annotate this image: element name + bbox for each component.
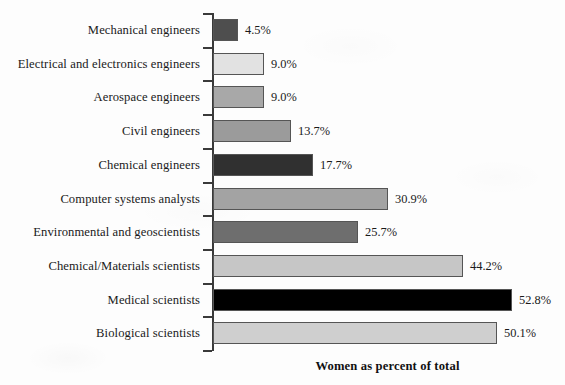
category-label: Environmental and geoscientists	[0, 215, 200, 249]
category-label: Electrical and electronics engineers	[0, 47, 200, 81]
axis-tick	[203, 215, 212, 217]
bar-value-label: 17.7%	[320, 154, 352, 176]
bar-value-label: 9.0%	[271, 53, 297, 75]
category-label: Chemical/Materials scientists	[0, 249, 200, 283]
category-label: Computer systems analysts	[0, 182, 200, 216]
axis-tick	[203, 13, 212, 15]
axis-tick	[203, 182, 212, 184]
axis-tick	[203, 283, 212, 285]
axis-tick	[203, 114, 212, 116]
bar	[213, 188, 388, 210]
axis-tick	[203, 316, 212, 318]
bar-value-label: 52.8%	[519, 289, 551, 311]
bar	[213, 221, 358, 243]
category-label: Medical scientists	[0, 283, 200, 317]
bar-value-label: 13.7%	[298, 120, 330, 142]
category-label: Biological scientists	[0, 316, 200, 350]
value-axis-title: Women as percent of total	[290, 359, 485, 374]
category-label: Chemical engineers	[0, 148, 200, 182]
bar	[213, 120, 291, 142]
bar	[213, 86, 264, 108]
bar	[213, 289, 512, 311]
bar	[213, 53, 264, 75]
axis-tick	[203, 148, 212, 150]
category-label: Mechanical engineers	[0, 13, 200, 47]
bar	[213, 322, 497, 344]
axis-tick	[203, 350, 212, 352]
bar	[213, 19, 238, 41]
bar-value-label: 25.7%	[365, 221, 397, 243]
bar-chart: Mechanical engineers4.5%Electrical and e…	[0, 0, 565, 385]
category-label: Aerospace engineers	[0, 80, 200, 114]
axis-tick	[203, 249, 212, 251]
axis-tick	[203, 47, 212, 49]
bar	[213, 255, 463, 277]
bar-value-label: 44.2%	[470, 255, 502, 277]
bar-value-label: 9.0%	[271, 86, 297, 108]
plot-area: Mechanical engineers4.5%Electrical and e…	[0, 0, 565, 385]
bar	[213, 154, 313, 176]
axis-tick	[203, 80, 212, 82]
bar-value-label: 50.1%	[504, 322, 536, 344]
bar-value-label: 30.9%	[395, 188, 427, 210]
category-label: Civil engineers	[0, 114, 200, 148]
bar-value-label: 4.5%	[245, 19, 271, 41]
